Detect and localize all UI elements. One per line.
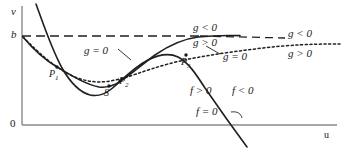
point-label-P1: P1 xyxy=(49,69,59,82)
region-label-g-eq-0-left: g = 0 xyxy=(84,45,108,56)
axes-group xyxy=(22,6,337,125)
region-label-g-gt-0-right: g > 0 xyxy=(288,48,312,59)
region-label-g-eq-0-right: g = 0 xyxy=(223,51,247,62)
point-label-S-text: S xyxy=(104,87,109,98)
region-label-f-eq-0: f = 0 xyxy=(196,106,217,117)
point-label-P2: P2 xyxy=(119,76,129,89)
y-axis-label: v xyxy=(11,6,16,17)
point-label-P3-sub: 3 xyxy=(187,62,191,70)
point-label-P1-sub: 1 xyxy=(55,74,59,82)
region-label-g-lt-0-right: g < 0 xyxy=(288,28,312,39)
y-tick-label-b: b xyxy=(11,29,17,40)
x-axis-label: u xyxy=(324,130,329,140)
leader-g-eq-0-left xyxy=(118,49,131,60)
leader-f-eq-0 xyxy=(231,112,242,118)
origin-label: 0 xyxy=(10,118,16,129)
region-label-g-lt-0-mid: g < 0 xyxy=(193,22,217,33)
point-label-S: S xyxy=(104,88,109,98)
region-label-f-gt-0: f > 0 xyxy=(190,85,211,96)
region-label-f-lt-0: f < 0 xyxy=(232,85,253,96)
point-label-P2-sub: 2 xyxy=(125,81,129,89)
region-label-g-gt-0-mid: g > 0 xyxy=(193,37,217,48)
point-label-P3: P3 xyxy=(181,57,191,70)
